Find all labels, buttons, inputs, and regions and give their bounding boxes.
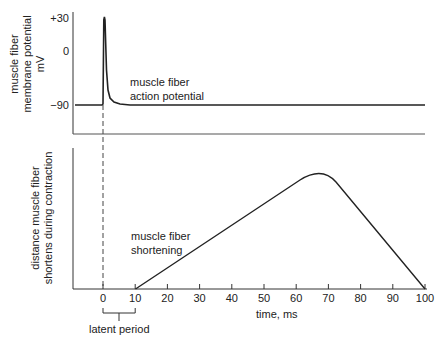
xtick-90: 90 — [387, 292, 399, 304]
latent-period-label: latent period — [89, 323, 150, 335]
shortening-label-line-1: muscle fiber — [131, 230, 191, 242]
top-ylabel: muscle fiber membrane potential mV — [8, 15, 46, 112]
xtick-70: 70 — [322, 292, 334, 304]
bottom-panel: distance muscle fiber shortens during co… — [29, 148, 434, 335]
action-potential-label-line-1: muscle fiber — [130, 76, 190, 88]
shortening-label-line-2: shortening — [131, 244, 182, 256]
xtick-80: 80 — [354, 292, 366, 304]
xtick-100: 100 — [416, 292, 434, 304]
bottom-ylabel-line-1: distance muscle fiber — [29, 166, 41, 270]
xtick-60: 60 — [290, 292, 302, 304]
top-ylabel-line-1: muscle fiber — [8, 34, 20, 94]
latent-period-bracket — [103, 308, 135, 321]
x-tick-marks — [103, 284, 425, 289]
x-axis-label: time, ms — [256, 308, 298, 320]
xtick-40: 40 — [226, 292, 238, 304]
xtick-50: 50 — [258, 292, 270, 304]
top-ytick-30: +30 — [50, 12, 69, 24]
top-ytick-minus90: −90 — [50, 99, 69, 111]
figure: muscle fiber membrane potential mV +30 0… — [0, 0, 446, 345]
action-potential-curve — [75, 17, 425, 105]
xtick-10: 10 — [129, 292, 141, 304]
top-ytick-0: 0 — [63, 45, 69, 57]
top-ylabel-line-3: mV — [34, 55, 46, 72]
xtick-0: 0 — [100, 292, 106, 304]
top-panel: muscle fiber membrane potential mV +30 0… — [8, 12, 425, 134]
xtick-30: 30 — [193, 292, 205, 304]
bottom-ylabel-line-2: shortens during contraction — [42, 152, 54, 285]
action-potential-label-line-2: action potential — [130, 90, 204, 102]
top-ylabel-line-2: membrane potential — [21, 15, 33, 112]
xtick-20: 20 — [161, 292, 173, 304]
bottom-ylabel: distance muscle fiber shortens during co… — [29, 152, 54, 285]
